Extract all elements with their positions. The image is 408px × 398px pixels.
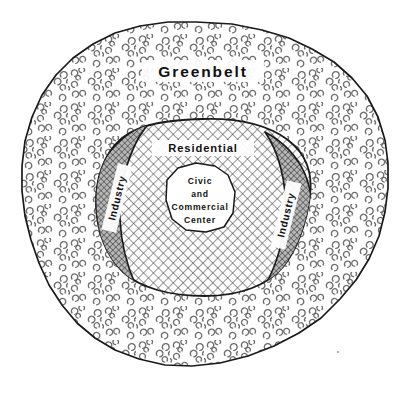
label-residential-group: Residential [152,140,254,156]
land-use-diagram: Greenbelt Residential Industry Industry … [0,0,408,398]
diagram-canvas: Greenbelt Residential Industry Industry … [0,0,408,398]
label-civic-line-2: and [191,189,209,199]
label-residential: Residential [168,142,238,154]
label-greenbelt: Greenbelt [158,63,247,80]
label-civic-line-1: Civic [188,176,213,186]
label-civic-line-4: Center [184,215,216,225]
label-civic-line-3: Commercial [171,202,228,212]
stray-speck [337,351,339,353]
label-greenbelt-group: Greenbelt [142,60,264,82]
